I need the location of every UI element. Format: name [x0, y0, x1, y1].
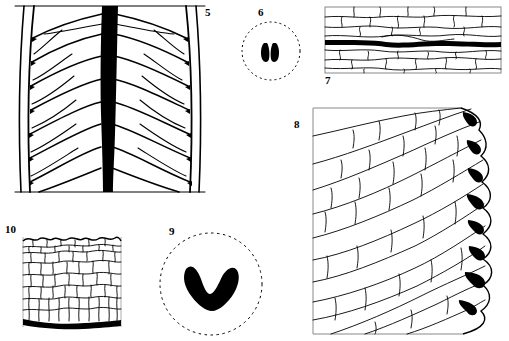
figure-9-label: 9	[169, 226, 175, 237]
figure-10-drawing	[21, 231, 123, 331]
figure-8-label: 8	[294, 119, 300, 130]
figure-5-drawing	[14, 4, 206, 194]
dashed-circle-outline	[160, 233, 262, 335]
figure-9-stoma	[158, 231, 264, 337]
guard-cell-right	[271, 43, 279, 62]
figure-8-leaf-margin	[311, 106, 507, 336]
figure-10-cell-tissue	[21, 231, 123, 331]
figure-5-label: 5	[205, 7, 211, 18]
figure-7-epidermis-vein	[324, 6, 502, 74]
guard-cell-left	[261, 43, 269, 62]
basal-band	[23, 319, 121, 329]
figure-9-drawing	[158, 231, 264, 337]
figure-7-drawing	[324, 6, 502, 74]
figure-6-label: 6	[258, 7, 264, 18]
marginal-glands	[459, 112, 485, 315]
figure-10-label: 10	[5, 224, 16, 235]
figure-8-drawing	[311, 106, 507, 336]
figure-7-label: 7	[325, 75, 331, 86]
figure-6-stoma	[240, 20, 302, 82]
v-shaped-mark	[184, 266, 239, 311]
botanical-plate: 5 6	[0, 0, 509, 341]
figure-6-drawing	[240, 20, 302, 82]
wavy-top-edge	[23, 237, 121, 241]
figure-5-leaf-venation	[14, 4, 206, 194]
